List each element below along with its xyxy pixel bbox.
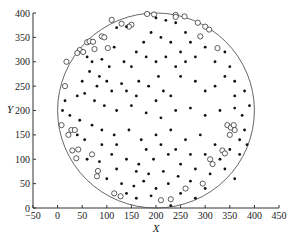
filled-dot-marker bbox=[147, 85, 150, 88]
filled-dot-marker bbox=[155, 16, 158, 19]
open-circle-marker bbox=[182, 14, 187, 19]
filled-dot-marker bbox=[204, 187, 207, 190]
filled-dot-marker bbox=[157, 75, 160, 78]
filled-dot-marker bbox=[155, 60, 158, 63]
filled-dot-marker bbox=[160, 143, 163, 146]
x-tick-label: 100 bbox=[99, 210, 114, 221]
open-circle-marker bbox=[215, 46, 220, 51]
x-tick-label: 0 bbox=[55, 210, 60, 221]
x-tick-label: 300 bbox=[198, 210, 213, 221]
open-circle-marker bbox=[112, 191, 117, 196]
filled-dot-marker bbox=[69, 114, 72, 117]
y-tick-label: 250 bbox=[15, 81, 30, 92]
filled-dot-marker bbox=[100, 129, 103, 132]
y-tick-label: 200 bbox=[15, 105, 30, 116]
filled-dot-marker bbox=[179, 51, 182, 54]
filled-dot-marker bbox=[135, 170, 138, 173]
filled-dot-marker bbox=[189, 41, 192, 44]
filled-dot-marker bbox=[189, 180, 192, 183]
interior-nodes-series bbox=[61, 16, 251, 206]
filled-dot-marker bbox=[150, 31, 153, 34]
filled-dot-marker bbox=[233, 94, 236, 97]
filled-dot-marker bbox=[110, 90, 113, 93]
filled-dot-marker bbox=[142, 180, 145, 183]
filled-dot-marker bbox=[150, 194, 153, 197]
open-circle-marker bbox=[72, 127, 77, 132]
x-tick-label: 250 bbox=[173, 210, 188, 221]
filled-dot-marker bbox=[81, 80, 84, 83]
x-tick-label: 400 bbox=[247, 210, 262, 221]
filled-dot-marker bbox=[169, 94, 172, 97]
open-circle-marker bbox=[66, 132, 71, 137]
filled-dot-marker bbox=[164, 55, 167, 58]
filled-dot-marker bbox=[169, 204, 172, 207]
open-circle-marker bbox=[92, 46, 97, 51]
filled-dot-marker bbox=[160, 36, 163, 39]
open-circle-marker bbox=[70, 148, 75, 153]
open-circle-marker bbox=[75, 50, 80, 55]
open-circle-marker bbox=[119, 21, 124, 26]
x-tick-label: 450 bbox=[272, 210, 287, 221]
filled-dot-marker bbox=[125, 158, 128, 161]
filled-dot-marker bbox=[194, 197, 197, 200]
open-circle-marker bbox=[198, 34, 203, 39]
open-circle-marker bbox=[227, 132, 232, 137]
filled-dot-marker bbox=[204, 153, 207, 156]
filled-dot-marker bbox=[76, 133, 79, 136]
filled-dot-marker bbox=[120, 82, 123, 85]
filled-dot-marker bbox=[160, 116, 163, 119]
filled-dot-marker bbox=[103, 104, 106, 107]
y-tick-label: 100 bbox=[15, 154, 30, 165]
y-tick-label: 300 bbox=[15, 56, 30, 67]
filled-dot-marker bbox=[152, 158, 155, 161]
filled-dot-marker bbox=[167, 182, 170, 185]
filled-dot-marker bbox=[189, 107, 192, 110]
filled-dot-marker bbox=[115, 26, 118, 29]
filled-dot-marker bbox=[108, 65, 111, 68]
filled-dot-marker bbox=[189, 153, 192, 156]
filled-dot-marker bbox=[83, 92, 86, 95]
open-circle-marker bbox=[90, 39, 95, 44]
axes: −500501001502002503003504004500501001502… bbox=[15, 8, 287, 222]
open-circle-marker bbox=[210, 162, 215, 167]
filled-dot-marker bbox=[246, 143, 249, 146]
filled-dot-marker bbox=[219, 109, 222, 112]
open-circle-marker bbox=[232, 127, 237, 132]
filled-dot-marker bbox=[113, 46, 116, 49]
filled-dot-marker bbox=[223, 168, 226, 171]
filled-dot-marker bbox=[184, 60, 187, 63]
open-circle-marker bbox=[158, 198, 163, 203]
x-tick-label: 200 bbox=[149, 210, 164, 221]
x-tick-label: 150 bbox=[124, 210, 139, 221]
filled-dot-marker bbox=[233, 80, 236, 83]
filled-dot-marker bbox=[115, 109, 118, 112]
open-circle-marker bbox=[95, 168, 100, 173]
filled-dot-marker bbox=[125, 25, 128, 28]
filled-dot-marker bbox=[98, 160, 101, 163]
filled-dot-marker bbox=[86, 55, 89, 58]
filled-dot-marker bbox=[98, 75, 101, 78]
open-circle-marker bbox=[208, 157, 213, 162]
filled-dot-marker bbox=[179, 75, 182, 78]
filled-dot-marker bbox=[214, 60, 217, 63]
filled-dot-marker bbox=[120, 182, 123, 185]
filled-dot-marker bbox=[145, 148, 148, 151]
filled-dot-marker bbox=[78, 119, 81, 122]
filled-dot-marker bbox=[96, 85, 99, 88]
filled-dot-marker bbox=[147, 172, 150, 175]
open-circle-marker bbox=[62, 84, 67, 89]
filled-dot-marker bbox=[179, 192, 182, 195]
filled-dot-marker bbox=[243, 129, 246, 132]
filled-dot-marker bbox=[100, 58, 103, 61]
filled-dot-marker bbox=[223, 51, 226, 54]
filled-dot-marker bbox=[86, 158, 89, 161]
filled-dot-marker bbox=[105, 80, 108, 83]
filled-dot-marker bbox=[137, 163, 140, 166]
filled-dot-marker bbox=[223, 75, 226, 78]
filled-dot-marker bbox=[162, 90, 165, 93]
filled-dot-marker bbox=[93, 99, 96, 102]
filled-dot-marker bbox=[113, 133, 116, 136]
open-circle-marker bbox=[102, 35, 107, 40]
filled-dot-marker bbox=[214, 85, 217, 88]
filled-dot-marker bbox=[142, 41, 145, 44]
